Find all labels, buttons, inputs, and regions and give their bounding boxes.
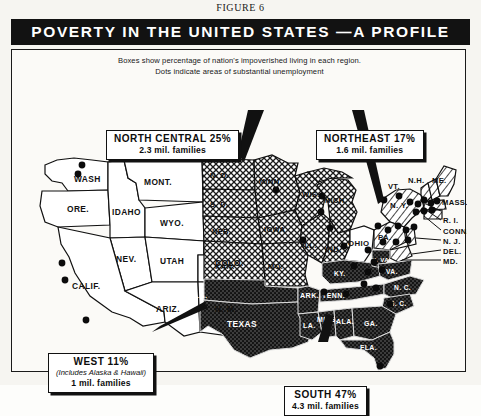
callout-south-families: 4.3 mil. families <box>292 401 359 412</box>
unemployment-dot <box>79 162 86 169</box>
label-sd: S. D. <box>210 200 228 209</box>
unemployment-dot <box>300 237 307 244</box>
unemployment-dot <box>365 269 372 276</box>
page-title: POVERTY IN THE UNITED STATES —A PROFILE <box>31 23 449 41</box>
label-texas: TEXAS <box>227 319 257 329</box>
unemployment-dot <box>377 363 384 370</box>
label-calif: CALIF. <box>72 281 100 291</box>
unemployment-dot <box>411 224 418 231</box>
label-idaho: IDAHO <box>112 207 141 217</box>
unemployment-dot <box>428 200 435 207</box>
label-okla: OKLA. <box>182 291 208 300</box>
label-nd: N. D. <box>210 171 229 180</box>
label-me: ME. <box>432 176 446 185</box>
label-ariz: ARIZ. <box>156 304 180 314</box>
callout-north-central-heading: NORTH CENTRAL 25% <box>114 133 231 145</box>
unemployment-dot <box>395 223 402 230</box>
unemployment-dot <box>273 187 280 194</box>
unemployment-dot <box>403 227 410 234</box>
label-wyo: WYO. <box>160 218 184 228</box>
unemployment-dot <box>375 223 382 230</box>
unemployment-dot <box>379 267 386 274</box>
callout-south[interactable]: SOUTH 47% 4.3 mil. families <box>284 386 367 416</box>
label-nj: N. J. <box>443 237 461 246</box>
label-mass: MASS. <box>442 198 467 207</box>
unemployment-dot <box>434 198 441 205</box>
unemployment-dot <box>59 260 66 267</box>
label-la: LA. <box>303 322 315 329</box>
label-ind: IND. <box>325 245 341 254</box>
callout-west-heading: WEST 11% <box>56 356 146 368</box>
callout-northeast-heading: NORTHEAST 17% <box>324 133 416 145</box>
callout-northeast-families: 1.6 mil. families <box>324 145 416 156</box>
callout-south-heading: SOUTH 47% <box>292 389 359 401</box>
label-mont: MONT. <box>144 177 172 187</box>
label-ri: R. I. <box>443 216 458 225</box>
label-ark: ARK. <box>300 291 319 300</box>
unemployment-dot <box>373 285 380 292</box>
label-ga: GA. <box>364 320 378 327</box>
label-nm: N. M. <box>215 304 237 314</box>
unemployment-dot <box>321 289 328 296</box>
label-vt: VT. <box>388 182 400 191</box>
unemployment-dot <box>421 208 428 215</box>
label-ohio: OHIO <box>348 239 370 248</box>
us-map: WASH ORE. IDAHO MONT. WYO. NEV. UTAH COL… <box>12 50 467 373</box>
unemployment-dot <box>407 199 414 206</box>
label-ny: N. Y. <box>390 201 408 210</box>
label-mich: MICH. <box>324 196 347 205</box>
title-bar: POVERTY IN THE UNITED STATES —A PROFILE <box>11 19 470 45</box>
unemployment-dot <box>319 193 326 200</box>
label-nh: N.H. <box>408 176 424 185</box>
unemployment-dot <box>318 209 325 216</box>
label-nev: NEV. <box>116 254 136 264</box>
callout-north-central[interactable]: NORTH CENTRAL 25% 2.3 mil. families <box>106 130 239 160</box>
label-va: VA. <box>386 268 398 275</box>
unemployment-dot <box>387 301 394 308</box>
unemployment-dot <box>429 207 436 214</box>
label-neb: NEB. <box>212 227 231 236</box>
label-ky: KY. <box>334 270 345 277</box>
unemployment-dot <box>371 259 378 266</box>
unemployment-dot <box>83 317 90 324</box>
figure-caption: FIGURE 6 <box>0 2 481 13</box>
callout-west[interactable]: WEST 11% (Includes Alaska & Hawaii) 1 mi… <box>48 353 154 393</box>
unemployment-dot <box>341 243 348 250</box>
unemployment-dot <box>393 239 400 246</box>
unemployment-dot <box>415 201 422 208</box>
unemployment-dot <box>396 193 403 200</box>
unemployment-dot <box>421 197 428 204</box>
label-conn: CONN. <box>443 227 467 236</box>
label-kan-2: KAN. <box>215 262 235 271</box>
unemployment-dot <box>365 247 372 254</box>
unemployment-dot <box>413 209 420 216</box>
unemployment-dot <box>385 227 392 234</box>
callout-north-central-families: 2.3 mil. families <box>114 145 231 156</box>
label-nc: N. C. <box>394 284 411 291</box>
label-fla: FLA. <box>360 344 377 351</box>
label-ala: ALA. <box>336 318 354 325</box>
unemployment-dot <box>351 263 358 270</box>
unemployment-dot <box>62 277 69 284</box>
callout-west-families: 1 mil. families <box>56 378 146 389</box>
label-del: DEL. <box>443 247 462 256</box>
unemployment-dot <box>361 281 368 288</box>
callout-northeast[interactable]: NORTHEAST 17% 1.6 mil. families <box>316 130 424 160</box>
state-minn <box>254 155 300 218</box>
map-panel: Boxes show percentage of nation's impove… <box>11 49 466 372</box>
label-utah: UTAH <box>160 256 184 266</box>
callout-west-note: (Includes Alaska & Hawaii) <box>56 368 146 378</box>
unemployment-dot <box>405 237 412 244</box>
label-iowa: IOWA <box>264 225 286 234</box>
label-mo: MO. <box>268 262 283 271</box>
unemployment-dot <box>380 239 387 246</box>
unemployment-dot <box>327 225 334 232</box>
pointer-north-central <box>238 110 264 162</box>
label-md: MD. <box>443 257 458 266</box>
label-wis: WIS. <box>302 190 320 199</box>
label-ore: ORE. <box>67 204 89 214</box>
unemployment-dot <box>75 171 82 178</box>
unemployment-dot <box>343 291 350 298</box>
label-minn: MINN. <box>259 177 282 186</box>
